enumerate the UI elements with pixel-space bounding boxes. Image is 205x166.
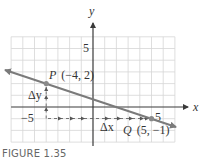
point-q — [149, 116, 154, 121]
y-tick-label-5: 5 — [83, 41, 89, 55]
x-tick-label-neg5: −5 — [21, 111, 34, 125]
figure-1-35-plot: x y 5 −5 5 Δy Δx P (−4, 2) Q (5, −1) — [0, 0, 205, 166]
delta-y-label: Δy — [28, 88, 42, 102]
point-q-label: Q (5, −1) — [123, 123, 169, 137]
x-axis-label: x — [192, 100, 199, 114]
point-p-name: P — [48, 68, 57, 82]
svg-text:P (−4, 2): P (−4, 2) — [48, 68, 94, 82]
delta-x-label: Δx — [100, 120, 114, 134]
point-q-name: Q — [123, 123, 132, 137]
point-q-coords: (5, −1) — [137, 123, 170, 137]
svg-text:Q (5, −1): Q (5, −1) — [123, 123, 169, 137]
figure-caption: FIGURE 1.35 — [2, 148, 67, 159]
point-p-label: P (−4, 2) — [48, 68, 94, 82]
y-axis-label: y — [88, 4, 95, 18]
point-p-coords: (−4, 2) — [61, 68, 94, 82]
